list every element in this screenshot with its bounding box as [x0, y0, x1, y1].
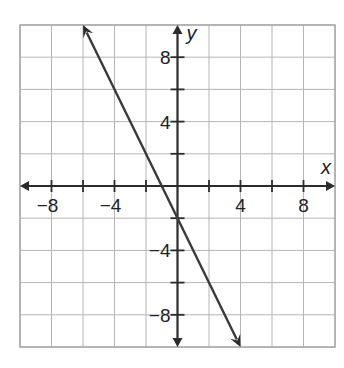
coordinate-plane: −8−44884−4−8 x y: [0, 0, 344, 368]
x-axis-left-arrow-icon: [20, 181, 29, 191]
y-tick-label: −4: [149, 240, 171, 261]
x-tick-label: 4: [235, 195, 246, 216]
y-tick-label: −8: [149, 305, 171, 326]
x-tick-label: −4: [100, 195, 122, 216]
x-tick-label: 8: [298, 195, 309, 216]
y-axis-up-arrow-icon: [173, 25, 183, 34]
y-tick-label: 8: [160, 47, 171, 68]
x-tick-label: −8: [37, 195, 59, 216]
axes: [20, 25, 335, 347]
x-axis-right-arrow-icon: [326, 181, 335, 191]
y-axis-down-arrow-icon: [173, 338, 183, 347]
y-tick-label: 4: [160, 112, 171, 133]
y-axis-label: y: [185, 22, 198, 44]
x-axis-label: x: [320, 156, 332, 178]
